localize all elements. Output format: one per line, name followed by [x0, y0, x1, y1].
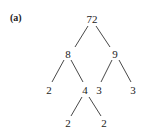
node-3-left: 3 — [96, 85, 102, 96]
node-4: 4 — [82, 85, 88, 96]
node-2-bottom-right: 2 — [101, 118, 107, 129]
edge-9-3a — [101, 60, 112, 82]
edge-4-2a — [71, 97, 82, 116]
node-8: 8 — [65, 49, 71, 60]
node-9: 9 — [112, 49, 118, 60]
node-72: 72 — [87, 14, 98, 25]
edge-72-8 — [75, 26, 88, 47]
node-2-bottom-left: 2 — [65, 118, 71, 129]
edge-4-2b — [89, 97, 101, 116]
tree-edges — [0, 0, 144, 135]
edge-9-3b — [119, 60, 131, 82]
edge-72-9 — [96, 26, 110, 47]
edge-8-4 — [71, 60, 83, 82]
node-2-left: 2 — [46, 85, 52, 96]
edge-8-2 — [52, 60, 64, 82]
node-3-right: 3 — [130, 85, 136, 96]
